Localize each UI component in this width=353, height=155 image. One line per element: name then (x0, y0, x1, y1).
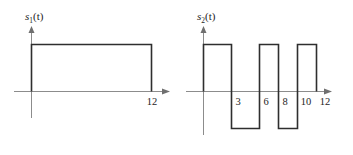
x-tick-label-8: 8 (282, 96, 287, 107)
x-tick-label-10: 10 (301, 96, 312, 107)
x-tick-label-12: 12 (320, 96, 331, 107)
x-tick-label-6: 6 (263, 96, 268, 107)
chart-title-s2: s2(t) (197, 10, 216, 25)
x-axis-arrowhead (324, 89, 332, 95)
chart-panel-s2: 3 6 8 10 12 s2(t) (176, 0, 353, 155)
signal-waveform-figure: 12 s1(t) 3 6 8 10 12 s2(t) (0, 0, 353, 155)
title-arg-s1: (t) (33, 10, 44, 23)
y-axis-arrowhead (201, 26, 207, 33)
chart-title-s1: s1(t) (25, 10, 44, 25)
x-axis-arrowhead (162, 89, 170, 95)
signal-trace-s2 (204, 45, 317, 129)
x-tick-label-12: 12 (147, 96, 158, 107)
chart-panel-s1: 12 s1(t) (0, 0, 177, 155)
x-tick-label-3: 3 (235, 96, 240, 107)
signal-trace-s1 (32, 45, 152, 92)
y-axis-arrowhead (29, 26, 35, 33)
title-arg-s2: (t) (205, 10, 216, 23)
